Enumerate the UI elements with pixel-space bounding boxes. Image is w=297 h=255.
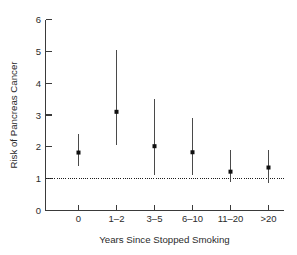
x-axis-title: Years Since Stopped Smoking bbox=[99, 234, 230, 245]
data-point-group bbox=[153, 99, 157, 175]
y-tick-label-0: 0 bbox=[36, 205, 41, 216]
data-point-group bbox=[229, 150, 233, 182]
y-tick-group bbox=[46, 20, 52, 211]
point-marker bbox=[153, 144, 157, 148]
x-tick-label-0: 0 bbox=[76, 213, 81, 224]
y-tick-label-4: 4 bbox=[36, 78, 41, 89]
y-tick-label-3: 3 bbox=[36, 110, 41, 121]
x-tick-label-3: 6–10 bbox=[182, 213, 203, 224]
x-tick-label-2: 3–5 bbox=[147, 213, 163, 224]
x-tick-label-5: >20 bbox=[260, 213, 276, 224]
point-marker bbox=[115, 110, 119, 114]
data-point-group bbox=[267, 150, 271, 183]
point-marker bbox=[191, 150, 195, 154]
error-bar-plot: 6 5 4 3 2 1 0 0 1–2 3–5 6–10 11–20 >20 Y… bbox=[0, 0, 297, 255]
chart-figure: 6 5 4 3 2 1 0 0 1–2 3–5 6–10 11–20 >20 Y… bbox=[0, 0, 297, 255]
y-tick-label-6: 6 bbox=[36, 14, 41, 25]
x-tick-label-4: 11–20 bbox=[218, 213, 244, 224]
x-tick-label-1: 1–2 bbox=[109, 213, 125, 224]
point-marker bbox=[77, 151, 81, 155]
point-marker bbox=[267, 166, 271, 170]
data-point-group bbox=[77, 134, 81, 166]
x-tick-group bbox=[79, 205, 269, 211]
point-marker bbox=[229, 170, 233, 174]
data-point-group bbox=[115, 50, 119, 146]
y-tick-label-5: 5 bbox=[36, 46, 41, 57]
y-tick-label-1: 1 bbox=[36, 173, 41, 184]
y-axis-title: Risk of Pancreas Cancer bbox=[8, 61, 19, 169]
y-tick-label-2: 2 bbox=[36, 141, 41, 152]
data-point-group bbox=[191, 118, 195, 175]
data-point-layer bbox=[77, 50, 271, 184]
